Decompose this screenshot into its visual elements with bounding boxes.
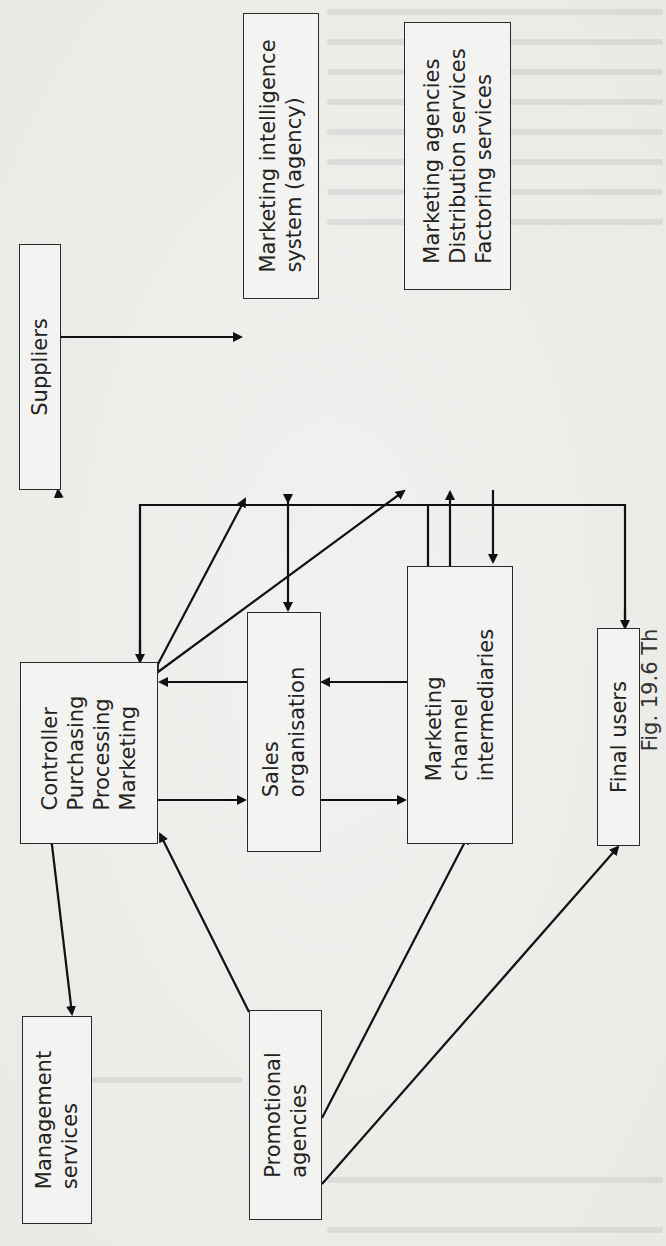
box-final-users: Final users <box>597 628 640 846</box>
box-suppliers: Suppliers <box>19 244 61 490</box>
box-label: Promotional agencies <box>260 1052 312 1178</box>
box-label: Controller Purchasing Processing Marketi… <box>37 696 141 811</box>
connector-lines <box>0 0 666 1246</box>
box-label: Final users <box>606 681 632 793</box>
box-label: Sales organisation <box>258 667 310 798</box>
box-controller: Controller Purchasing Processing Marketi… <box>20 662 158 844</box>
box-marketing-intelligence: Marketing intelligence system (agency) <box>243 13 319 299</box>
box-promotional-agencies: Promotional agencies <box>249 1010 322 1220</box>
box-label: Marketing agencies Distribution services… <box>419 48 497 263</box>
box-label: Marketing channel intermediaries <box>421 629 499 781</box>
box-marketing-agencies: Marketing agencies Distribution services… <box>404 22 511 290</box>
box-sales-organisation: Sales organisation <box>247 612 321 852</box>
figure-caption: Fig. 19.6 Th <box>638 629 662 752</box>
box-management-services: Management services <box>22 1016 92 1224</box>
box-label: Marketing intelligence system (agency) <box>255 39 307 272</box>
box-label: Suppliers <box>27 318 53 415</box>
box-channel-intermediaries: Marketing channel intermediaries <box>407 566 513 844</box>
box-label: Management services <box>31 1051 83 1189</box>
